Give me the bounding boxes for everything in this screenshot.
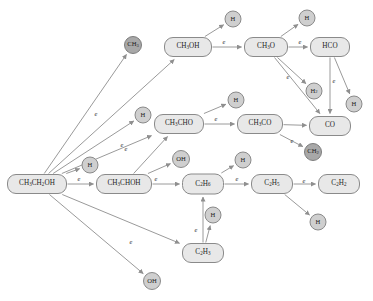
edge-ethanol-to-ch3cho (62, 136, 152, 174)
edge-ch3choh-to-oh_mid (148, 164, 171, 174)
node-label: CH3CHOH (107, 180, 140, 187)
edge-label-ch3co-to-co: e (291, 137, 294, 144)
edge-ethanol-to-c2h3 (62, 195, 179, 244)
node-ch3co[interactable]: CH3CO (237, 114, 283, 134)
node-label: H (316, 219, 321, 226)
edge-label-ethanol-to-c2h3: e (130, 238, 133, 245)
node-label: C2H5 (264, 180, 279, 187)
node-label: H2 (310, 87, 317, 94)
node-h_low1[interactable]: H (82, 157, 99, 174)
node-label: H (305, 15, 310, 22)
node-label: H (352, 101, 357, 108)
node-h_mid2[interactable]: H (228, 92, 245, 109)
node-c2h2[interactable]: C2H2 (318, 174, 360, 194)
node-label: CH3CHO (165, 120, 193, 127)
edge-ch3o-to-h_top2 (281, 24, 298, 36)
edge-ch3o-to-h2_mid (277, 58, 305, 84)
node-ch3choh[interactable]: CH3CHOH (96, 174, 152, 194)
node-h_low3[interactable]: H (205, 207, 222, 224)
reaction-network-diagram: CH3CH2OHCH3OHCH3OHCOCOCH3CHOCH3COCH3CHOH… (0, 0, 373, 301)
node-label: CO (325, 122, 335, 129)
node-label: C2H3 (195, 249, 210, 256)
node-c2h3[interactable]: C2H3 (182, 243, 224, 263)
node-oh_mid[interactable]: OH (172, 150, 190, 168)
node-ch3o[interactable]: CH3O (244, 37, 288, 57)
node-c2h5[interactable]: C2H5 (251, 174, 293, 194)
edge-label-ch3cho-to-ch3co: e (215, 115, 218, 122)
node-label: CH3OH (176, 43, 199, 50)
node-ethanol[interactable]: CH3CH2OH (7, 174, 67, 194)
node-label: H (231, 16, 236, 23)
edge-ch3cho-to-h_mid2 (204, 104, 226, 113)
edge-label-ch3o-to-hco: e (299, 38, 302, 45)
node-label: CH2 (307, 148, 318, 155)
edge-ethanol-to-oh_bot (49, 195, 143, 274)
edge-label-c2h6-to-c2h5: e (236, 175, 239, 182)
edge-ch3co-to-co (284, 125, 307, 126)
node-label: H (141, 112, 146, 119)
node-label: C2H2 (331, 180, 346, 187)
node-h_bot[interactable]: H (310, 214, 327, 231)
edge-label-ethanol-to-ch3cho: e (121, 141, 124, 148)
edge-c2h5-to-h_bot (285, 195, 310, 215)
node-label: OH (176, 156, 186, 163)
node-hco[interactable]: HCO (310, 37, 350, 57)
edge-hco-to-h_right (334, 58, 349, 94)
node-ch3oh[interactable]: CH3OH (164, 37, 212, 57)
node-label: H (88, 162, 93, 169)
edge-ch3oh-to-h_top1 (205, 25, 224, 37)
node-label: CH3O (257, 43, 275, 50)
node-h2_mid[interactable]: H2 (306, 83, 323, 100)
edge-label-ch3choh-to-c2h6: e (155, 175, 158, 182)
edge-label-c2h3-to-c2h6: e (195, 226, 198, 233)
edge-c2h6-to-h_low2 (221, 166, 233, 173)
node-h_top2[interactable]: H (299, 10, 316, 27)
edge-label-ch3oh-to-ch3o: e (223, 38, 226, 45)
edge-label-ethanol-to-ch3oh: e (95, 110, 98, 117)
node-ch3_rad[interactable]: CH3 (124, 36, 142, 54)
edge-c2h3-to-h_low3 (206, 226, 210, 243)
node-label: CH3 (127, 41, 138, 48)
node-c2h6[interactable]: C2H6 (182, 174, 224, 195)
node-label: CH3CO (249, 120, 272, 127)
node-label: OH (147, 278, 157, 285)
edge-label-hco-to-co: e (333, 77, 336, 84)
node-label: C2H6 (195, 180, 210, 187)
edge-label-ethanol-to-ch3choh: e (78, 175, 81, 182)
node-label: HCO (322, 43, 337, 50)
node-label: H (211, 212, 216, 219)
edge-label-c2h5-to-c2h2: e (303, 177, 306, 184)
edge-ch3choh-to-ch3cho (134, 137, 168, 174)
node-h_mid1[interactable]: H (135, 107, 152, 124)
node-label: H (241, 157, 246, 164)
node-label: CH3CH2OH (19, 180, 55, 187)
node-h_low2[interactable]: H (235, 152, 252, 169)
node-h_top1[interactable]: H (225, 11, 242, 28)
edge-label-ch3o-to-h2_mid: e (287, 73, 290, 80)
node-oh_bot[interactable]: OH (143, 272, 161, 290)
edge-label-ch3choh-to-ch3cho: e (125, 145, 128, 152)
node-label: H (234, 97, 239, 104)
node-h_right[interactable]: H (346, 96, 363, 113)
node-ch2_rad[interactable]: CH2 (304, 143, 322, 161)
node-co[interactable]: CO (309, 116, 351, 136)
node-ch3cho[interactable]: CH3CHO (154, 114, 204, 134)
